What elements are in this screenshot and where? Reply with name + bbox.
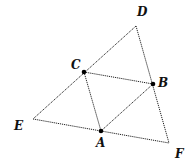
label-C: C	[71, 59, 81, 71]
label-E: E	[14, 120, 23, 132]
label-A: A	[96, 137, 105, 149]
point-C-dot	[82, 70, 87, 75]
point-A-dot	[99, 129, 104, 134]
point-B-dot	[151, 82, 156, 87]
label-D: D	[137, 6, 147, 18]
label-F: F	[175, 148, 184, 160]
triangle-diagram: D C B A E F	[0, 0, 192, 167]
segment-AB	[101, 84, 153, 131]
segment-CB	[84, 72, 153, 84]
segment-CA	[84, 72, 101, 131]
label-B: B	[158, 77, 168, 89]
